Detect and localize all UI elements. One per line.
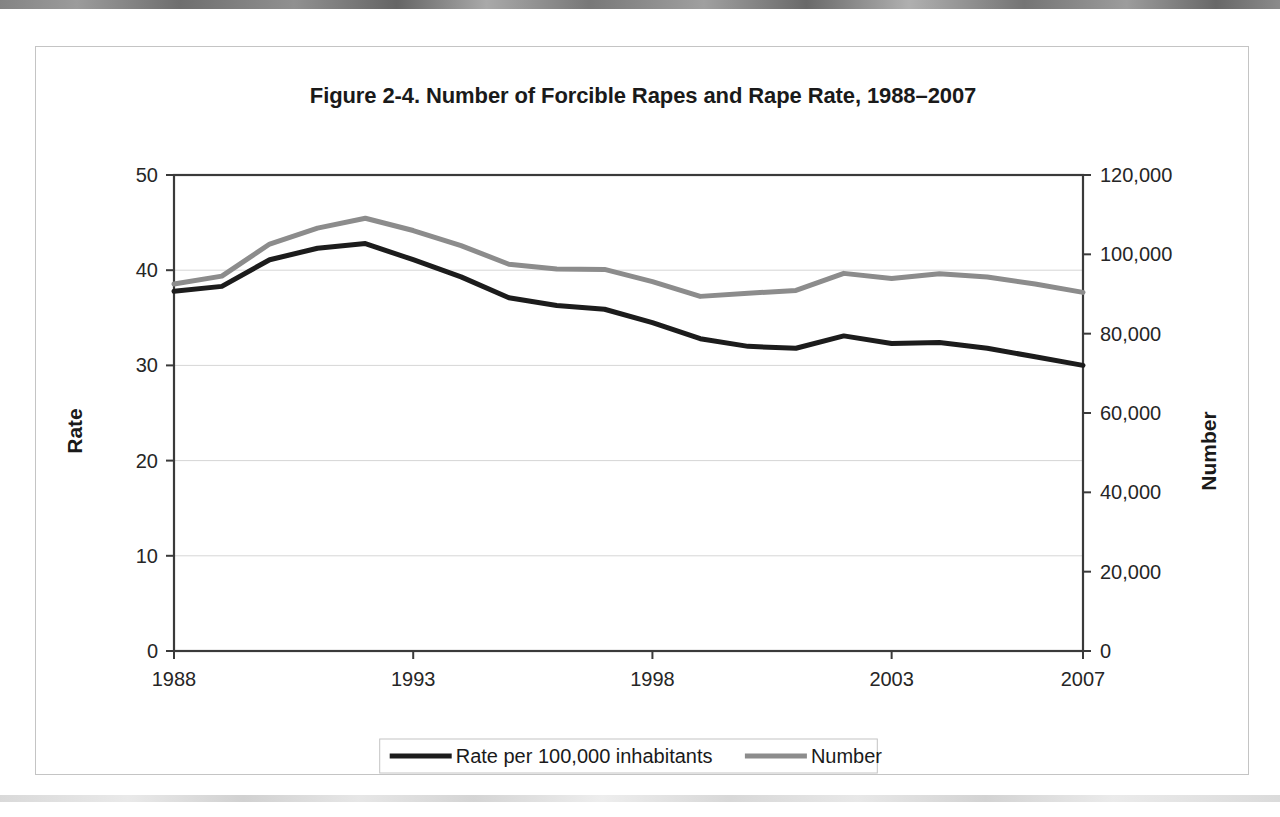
scan-artifact-top-band [0,0,1280,9]
x-tick-label: 2007 [1061,668,1106,690]
gridlines [174,270,1083,556]
axis-tick-marks [166,175,1091,659]
x-tick-label: 2003 [869,668,914,690]
left-tick-label: 30 [136,354,158,376]
right-tick-label: 60,000 [1100,402,1161,424]
x-axis-tick-labels: 19881993199820032007 [152,668,1106,690]
left-tick-label: 20 [136,450,158,472]
left-axis-title: Rate [63,408,86,454]
legend-label: Rate per 100,000 inhabitants [456,745,713,767]
left-tick-label: 10 [136,545,158,567]
right-axis-title: Number [1197,411,1220,490]
left-tick-label: 0 [147,640,158,662]
right-tick-label: 120,000 [1100,164,1172,186]
series-line [174,244,1083,366]
legend-label: Number [811,745,882,767]
scan-artifact-bottom-band [0,795,1280,802]
axis-titles: RateNumber [63,408,1220,490]
x-tick-label: 1988 [152,668,197,690]
right-axis-tick-labels: 020,00040,00060,00080,000100,000120,000 [1100,164,1172,662]
left-axis-tick-labels: 01020304050 [136,164,158,662]
right-tick-label: 80,000 [1100,323,1161,345]
left-tick-label: 50 [136,164,158,186]
right-tick-label: 100,000 [1100,243,1172,265]
series-line [174,218,1083,296]
chart-legend: Rate per 100,000 inhabitantsNumber [380,739,883,773]
right-tick-label: 20,000 [1100,561,1161,583]
line-chart: 01020304050 020,00040,00060,00080,000100… [36,47,1250,776]
x-tick-label: 1998 [630,668,675,690]
plot-area-frame [174,175,1083,651]
x-tick-label: 1993 [391,668,436,690]
right-tick-label: 40,000 [1100,481,1161,503]
right-tick-label: 0 [1100,640,1111,662]
left-tick-label: 40 [136,259,158,281]
data-series [174,218,1083,365]
figure-frame: Figure 2-4. Number of Forcible Rapes and… [35,46,1249,775]
